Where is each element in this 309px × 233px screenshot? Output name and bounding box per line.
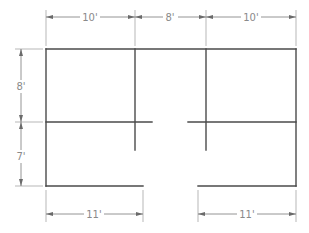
extension-lines	[15, 10, 296, 222]
dimension-label: 11'	[239, 209, 254, 220]
left-dimension-8ft: 8'	[14, 49, 29, 122]
dimension-label: 8'	[16, 81, 25, 92]
top-dimension-10ft-left: 10'	[46, 10, 135, 23]
dimension-label: 11'	[86, 209, 101, 220]
dimension-label: 8'	[165, 12, 174, 23]
dimension-label: 7'	[16, 151, 25, 162]
floor-plan-drawing: 10' 8' 10' 8' 7' 11'	[0, 0, 309, 233]
dimension-label: 10'	[82, 12, 97, 23]
bottom-dimension-11ft-right: 11'	[198, 207, 296, 220]
top-dimension-8ft: 8'	[135, 10, 206, 23]
left-dimension-7ft: 7'	[14, 122, 29, 186]
dimension-label: 10'	[243, 12, 258, 23]
walls	[46, 49, 296, 186]
top-dimension-10ft-right: 10'	[206, 10, 296, 23]
bottom-dimension-11ft-left: 11'	[46, 207, 143, 220]
